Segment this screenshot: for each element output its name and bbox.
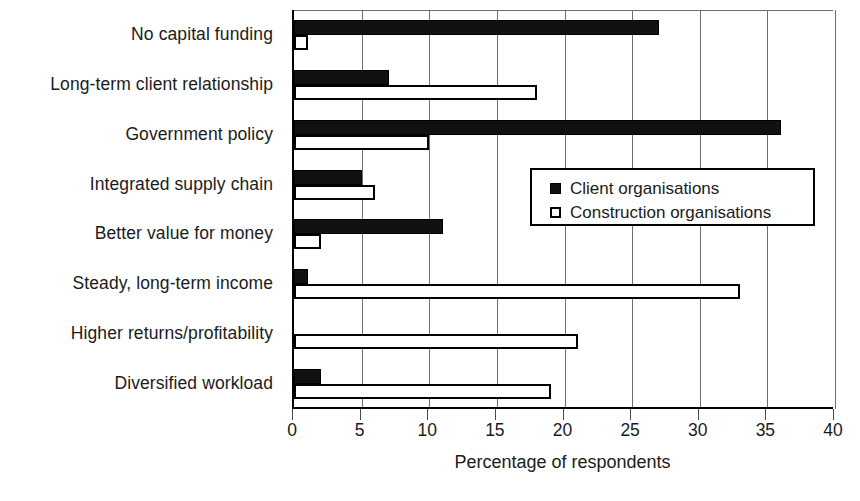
x-axis-tick-label: 30 xyxy=(688,422,707,440)
bar-client xyxy=(294,120,781,135)
category-label: Steady, long-term income xyxy=(73,275,274,293)
legend-swatch-filled-icon xyxy=(550,183,561,194)
category-label: Long-term client relationship xyxy=(50,76,273,94)
category-label: Diversified workload xyxy=(114,375,273,393)
gridline xyxy=(835,10,836,409)
bar-client xyxy=(294,70,389,85)
bar-client xyxy=(294,369,321,384)
x-axis-tick xyxy=(833,409,834,420)
x-axis-tick-label: 5 xyxy=(355,422,365,440)
bar-group xyxy=(294,60,835,110)
bar-group xyxy=(294,10,835,60)
bar-construction xyxy=(294,334,578,349)
bar-construction xyxy=(294,85,537,100)
bar-group xyxy=(294,259,835,309)
category-label: No capital funding xyxy=(131,26,273,44)
category-axis-labels: No capital funding Long-term client rela… xyxy=(0,10,285,409)
x-axis-tick xyxy=(427,409,428,420)
bar-group xyxy=(294,110,835,160)
legend-item-client-organisations: Client organisations xyxy=(550,177,813,199)
category-label: Government policy xyxy=(125,126,273,144)
legend: Client organisations Construction organi… xyxy=(530,168,815,226)
bar-chart: No capital funding Long-term client rela… xyxy=(0,0,860,501)
bar-construction xyxy=(294,234,321,249)
x-axis-tick-label: 20 xyxy=(553,422,572,440)
bar-construction xyxy=(294,185,375,200)
category-label: Higher returns/profitability xyxy=(71,325,273,343)
x-axis-tick xyxy=(292,409,293,420)
x-axis-tick-labels: 0510152025303540 xyxy=(292,422,833,448)
bar-construction xyxy=(294,284,740,299)
bar-client xyxy=(294,170,362,185)
x-axis-tick xyxy=(563,409,564,420)
bar-group xyxy=(294,359,835,409)
x-axis-tick-label: 25 xyxy=(620,422,639,440)
category-label: Integrated supply chain xyxy=(90,176,273,194)
category-label: Better value for money xyxy=(95,225,273,243)
legend-item-construction-organisations: Construction organisations xyxy=(550,201,813,223)
x-axis-tick-label: 40 xyxy=(823,422,842,440)
bar-group xyxy=(294,309,835,359)
x-axis-tick-label: 15 xyxy=(485,422,504,440)
bar-construction xyxy=(294,384,551,399)
bar-client xyxy=(294,20,659,35)
x-axis-tick xyxy=(698,409,699,420)
x-axis-tick-label: 35 xyxy=(756,422,775,440)
x-axis-tick-label: 10 xyxy=(418,422,437,440)
x-axis-tick xyxy=(360,409,361,420)
bar-client xyxy=(294,269,308,284)
bar-construction xyxy=(294,35,308,50)
x-axis-tick-label: 0 xyxy=(287,422,297,440)
x-axis-tick xyxy=(630,409,631,420)
x-axis-title: Percentage of respondents xyxy=(292,452,833,473)
legend-label: Construction organisations xyxy=(570,204,771,221)
legend-label: Client organisations xyxy=(570,180,719,197)
bar-construction xyxy=(294,135,429,150)
x-axis-tick xyxy=(495,409,496,420)
bar-client xyxy=(294,219,443,234)
x-axis-tick xyxy=(765,409,766,420)
legend-swatch-hollow-icon xyxy=(550,207,561,218)
